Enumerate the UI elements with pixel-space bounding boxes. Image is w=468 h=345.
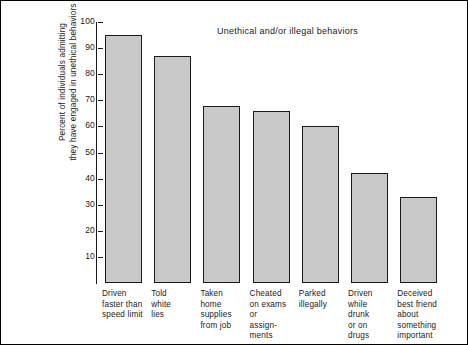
x-axis-category-label-line: drunk (348, 310, 373, 321)
chart-figure: Percent of individuals admitting they ha… (0, 0, 468, 345)
x-axis-category-label-line: about (397, 310, 437, 321)
bar (400, 197, 437, 283)
x-axis-category-label-line: from job (200, 321, 231, 332)
x-axis-category-label: Parkedillegally (299, 289, 327, 310)
x-axis-category-label-line: Cheated (250, 289, 287, 300)
x-axis-category-label-line: white (151, 300, 171, 311)
x-axis-category-label-line: drugs (348, 331, 373, 342)
x-axis-category-label-line: supplies (200, 310, 231, 321)
x-axis-category-label-line: best friend (397, 300, 437, 311)
x-axis-category-label-line: speed limit (102, 310, 143, 321)
x-axis-category-label-line: illegally (299, 300, 327, 311)
x-axis-category-label: Cheatedon examsorassign-ments (250, 289, 287, 342)
x-axis-category-label: Drivenwhiledrunkor ondrugs (348, 289, 373, 342)
x-axis-category-label: Deceivedbest friendaboutsomethingimporta… (397, 289, 437, 342)
x-axis-category-label-line: Parked (299, 289, 327, 300)
x-axis-category-label-line: important (397, 331, 437, 342)
x-axis-category-label: Drivenfaster thanspeed limit (102, 289, 143, 321)
x-axis-category-label-line: faster than (102, 300, 143, 311)
x-axis-category-label-line: home (200, 300, 231, 311)
x-axis-category-label-line: Told (151, 289, 171, 300)
bar (351, 173, 388, 283)
bar (203, 106, 240, 283)
bar (154, 56, 191, 283)
bar (105, 35, 142, 283)
x-axis-category-label: Takenhomesuppliesfrom job (200, 289, 231, 331)
x-axis-category-label-line: Driven (102, 289, 143, 300)
x-axis-category-label-line: on exams (250, 300, 287, 311)
bar-chart-plot: Percent of individuals admitting they ha… (1, 1, 468, 345)
x-axis-category-label-line: or (250, 310, 287, 321)
x-axis-category-label-line: lies (151, 310, 171, 321)
x-axis-category-label: Toldwhitelies (151, 289, 171, 321)
x-axis-category-label-line: ments (250, 331, 287, 342)
x-axis-category-label-line: while (348, 300, 373, 311)
bar (253, 111, 290, 283)
x-axis-category-label-line: Driven (348, 289, 373, 300)
x-axis-category-label-line: or on (348, 321, 373, 332)
x-axis-category-label-line: assign- (250, 321, 287, 332)
bar (302, 126, 339, 283)
x-axis-category-label-line: Deceived (397, 289, 437, 300)
x-axis-category-label-line: something (397, 321, 437, 332)
x-axis-category-label-line: Taken (200, 289, 231, 300)
